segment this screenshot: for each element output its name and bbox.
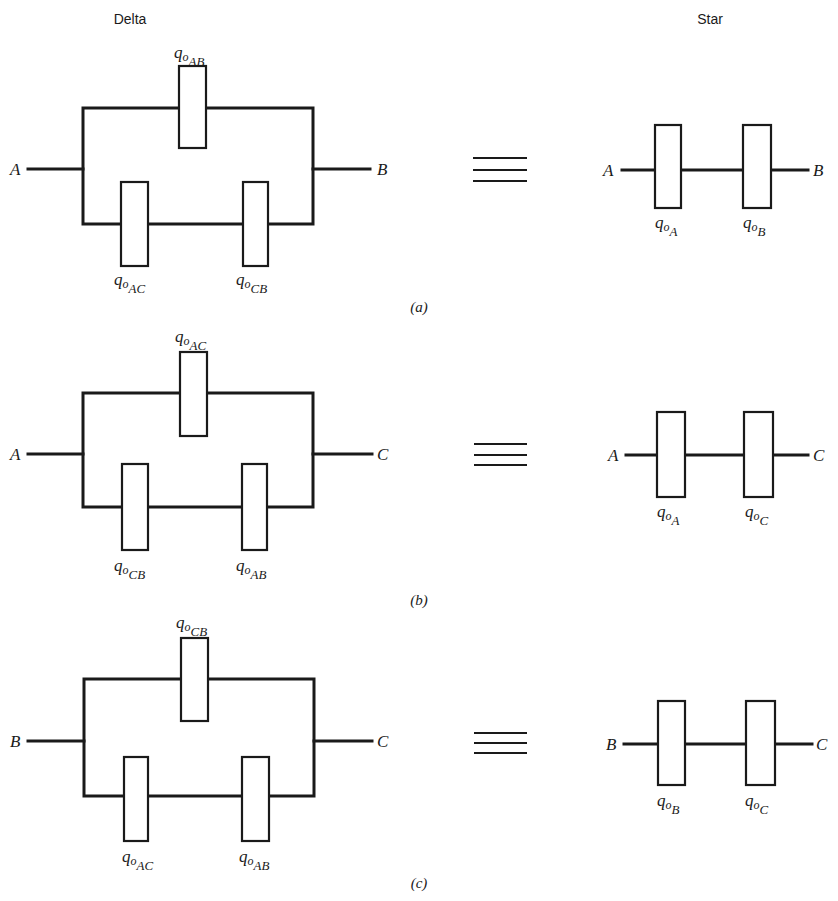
panel-caption: (b) (410, 592, 428, 609)
delta-network: A B qoAB qoAC qoCB (9, 43, 388, 296)
terminal-right-label: C (377, 732, 389, 751)
terminal-left-label: A (602, 161, 614, 180)
element-left (658, 701, 685, 785)
terminal-right-label: C (377, 445, 389, 464)
delta-star-equivalence-figure: Delta Star A B qoAB qoAC qoCB (0, 0, 838, 901)
terminal-left-label: B (10, 732, 21, 751)
element-bottom-left (121, 182, 148, 266)
element-left (657, 412, 685, 497)
element-right-label: qoC (745, 502, 769, 528)
element-right (743, 125, 771, 208)
panel-caption: (a) (410, 299, 428, 316)
element-top-label: qoAC (175, 327, 206, 353)
element-left (655, 125, 681, 208)
terminal-left-label: B (606, 735, 617, 754)
element-bottom-left-label: qoAC (122, 847, 153, 873)
element-top-label: qoCB (176, 613, 207, 639)
terminal-right-label: B (813, 161, 824, 180)
element-top (179, 66, 206, 148)
element-right (746, 701, 775, 785)
terminal-right-label: B (377, 160, 388, 179)
star-network: A B qoA qoB (602, 125, 824, 239)
panel-b: A C qoAC qoCB qoAB A C qoA qoC (b) (9, 327, 825, 609)
element-left-label: qoB (657, 791, 680, 817)
panel-a: A B qoAB qoAC qoCB A B qoA qoB (a) (9, 43, 824, 316)
element-right (744, 412, 773, 497)
element-bottom-right (243, 182, 268, 266)
element-bottom-right (242, 464, 267, 550)
terminal-left-label: A (9, 445, 21, 464)
panel-c: B C qoCB qoAC qoAB B C qoB qoC (c) (10, 613, 828, 892)
star-network: B C qoB qoC (606, 701, 828, 817)
element-top (180, 352, 207, 436)
equivalence-sign (474, 444, 527, 465)
terminal-right-label: C (813, 446, 825, 465)
delta-network: A C qoAC qoCB qoAB (9, 327, 389, 582)
delta-column-header: Delta (114, 11, 147, 27)
terminal-left-label: A (9, 160, 21, 179)
element-bottom-left (122, 464, 148, 550)
panel-caption: (c) (411, 875, 428, 892)
terminal-right-label: C (816, 735, 828, 754)
element-bottom-left-label: qoCB (114, 556, 145, 582)
element-bottom-right-label: qoCB (236, 270, 267, 296)
element-left-label: qoA (655, 213, 678, 239)
equivalence-sign (473, 158, 527, 181)
star-network: A C qoA qoC (607, 412, 825, 528)
element-bottom-right-label: qoAB (236, 556, 266, 582)
element-top (181, 638, 208, 721)
star-column-header: Star (697, 11, 723, 27)
equivalence-sign (474, 733, 527, 753)
element-left-label: qoA (657, 502, 680, 528)
element-right-label: qoB (743, 213, 766, 239)
element-bottom-left (124, 757, 148, 841)
terminal-left-label: A (607, 446, 619, 465)
element-bottom-right (242, 757, 269, 841)
element-bottom-right-label: qoAB (239, 847, 269, 873)
element-right-label: qoC (745, 791, 769, 817)
delta-network: B C qoCB qoAC qoAB (10, 613, 389, 873)
element-bottom-left-label: qoAC (114, 270, 145, 296)
